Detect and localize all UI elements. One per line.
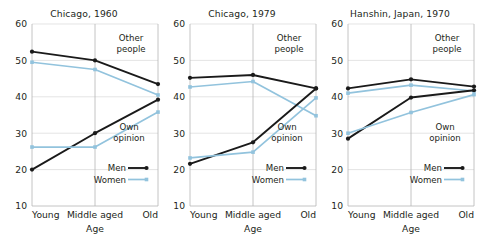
y-axis-tick-label: 30 — [15, 128, 27, 139]
plot-annotation: Other — [277, 33, 302, 43]
plot-annotation: Other — [119, 33, 144, 43]
data-point — [409, 77, 413, 81]
data-point — [30, 168, 34, 172]
y-axis-tick-label: 60 — [173, 18, 185, 29]
data-point — [472, 93, 476, 97]
x-axis-tick-label: Young — [347, 209, 376, 220]
plot-annotation: Other — [435, 33, 460, 43]
data-point — [30, 50, 34, 54]
data-point — [188, 162, 192, 166]
legend-label: Men — [108, 163, 126, 173]
y-axis-tick-label: 60 — [331, 18, 343, 29]
y-axis-tick-label: 40 — [15, 91, 27, 102]
plot-annotation: people — [432, 44, 461, 54]
data-point — [472, 85, 476, 89]
legend-swatch-marker — [302, 166, 306, 170]
y-axis-tick-label: 20 — [15, 164, 27, 175]
x-axis-tick-label: Young — [31, 209, 60, 220]
data-point — [251, 73, 255, 77]
legend-swatch-marker — [144, 166, 148, 170]
plot-annotation: Own — [119, 122, 138, 132]
y-axis-tick-label: 60 — [15, 18, 27, 29]
legend-swatch-marker — [303, 178, 307, 182]
plot-annotation: opinion — [113, 133, 145, 143]
data-point — [30, 60, 34, 64]
figure-caption-cutoff — [0, 236, 485, 243]
data-point — [93, 68, 97, 72]
data-point — [251, 80, 255, 84]
chart-panel: Chicago, 1960102030405060OtherpeopleOwno… — [0, 0, 168, 243]
x-axis-tick-label: Old — [300, 209, 316, 220]
y-axis-tick-label: 50 — [331, 55, 343, 66]
legend-label: Women — [252, 175, 284, 185]
legend-label: Men — [266, 163, 284, 173]
y-axis-tick-label: 40 — [173, 91, 185, 102]
y-axis-tick-label: 10 — [15, 200, 27, 211]
data-point — [346, 131, 350, 135]
x-axis-tick-label: Young — [189, 209, 218, 220]
legend-swatch-marker — [460, 166, 464, 170]
x-axis-title: Age — [86, 223, 104, 234]
y-axis-tick-label: 10 — [173, 200, 185, 211]
plot-annotation: Own — [277, 122, 296, 132]
data-point — [472, 88, 476, 92]
chart-panel: Chicago, 1979102030405060OtherpeopleOwno… — [158, 0, 326, 243]
data-point — [30, 145, 34, 149]
plot-annotation: Own — [435, 122, 454, 132]
data-point — [251, 150, 255, 154]
x-axis-tick-label: Middle aged — [383, 209, 439, 220]
x-axis-title: Age — [402, 223, 420, 234]
panel-title: Chicago, 1979 — [158, 8, 326, 19]
data-point — [346, 86, 350, 90]
plot-annotation: opinion — [271, 133, 303, 143]
y-axis-tick-label: 40 — [331, 91, 343, 102]
legend-label: Women — [410, 175, 442, 185]
data-point — [93, 131, 97, 135]
plot-annotation: opinion — [429, 133, 461, 143]
x-axis-title: Age — [244, 223, 262, 234]
x-axis-tick-label: Middle aged — [67, 209, 123, 220]
y-axis-tick-label: 20 — [331, 164, 343, 175]
data-point — [346, 91, 350, 95]
data-point — [93, 58, 97, 62]
data-point — [188, 85, 192, 89]
data-point — [251, 140, 255, 144]
y-axis-tick-label: 10 — [331, 200, 343, 211]
x-axis-tick-label: Old — [458, 209, 474, 220]
y-axis-tick-label: 30 — [331, 128, 343, 139]
figure-three-panel-line-charts: Chicago, 1960102030405060OtherpeopleOwno… — [0, 0, 485, 243]
data-point — [409, 83, 413, 87]
legend-swatch-marker — [461, 178, 465, 182]
data-point — [409, 95, 413, 99]
panel-title: Chicago, 1960 — [0, 8, 168, 19]
x-axis-tick-label: Old — [142, 209, 158, 220]
legend-label: Women — [94, 175, 126, 185]
x-axis-tick-label: Middle aged — [225, 209, 281, 220]
data-point — [93, 145, 97, 149]
y-axis-tick-label: 50 — [15, 55, 27, 66]
legend-swatch-marker — [145, 178, 149, 182]
y-axis-tick-label: 30 — [173, 128, 185, 139]
plot-area: 102030405060OtherpeopleOwnopinionMenWome… — [0, 0, 168, 243]
y-axis-tick-label: 50 — [173, 55, 185, 66]
data-point — [346, 137, 350, 141]
chart-panel: Hanshin, Japan, 1970102030405060Otherpeo… — [316, 0, 484, 243]
data-point — [409, 111, 413, 115]
plot-area: 102030405060OtherpeopleOwnopinionMenWome… — [158, 0, 326, 243]
data-point — [188, 156, 192, 160]
panel-title: Hanshin, Japan, 1970 — [316, 8, 484, 19]
data-point — [188, 76, 192, 80]
y-axis-tick-label: 20 — [173, 164, 185, 175]
plot-annotation: people — [116, 44, 145, 54]
plot-area: 102030405060OtherpeopleOwnopinionMenWome… — [316, 0, 484, 243]
plot-annotation: people — [274, 44, 303, 54]
legend-label: Men — [424, 163, 442, 173]
